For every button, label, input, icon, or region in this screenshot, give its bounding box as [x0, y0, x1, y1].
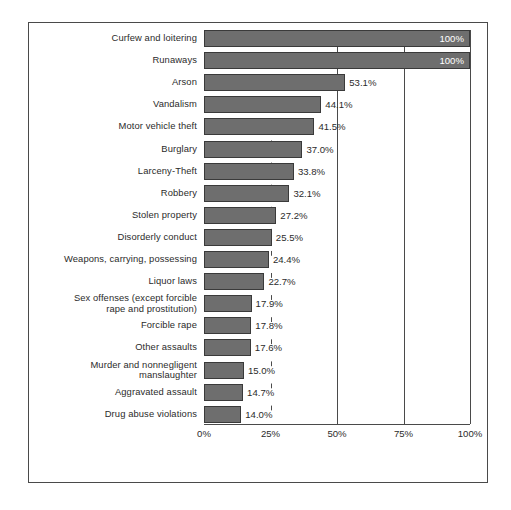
figure: Curfew and loitering100%Runaways100%Arso…: [0, 0, 511, 510]
chart-frame-border: [28, 22, 488, 483]
